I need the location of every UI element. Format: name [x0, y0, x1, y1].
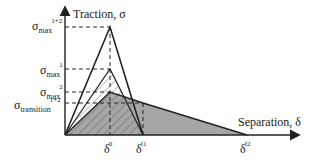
y-axis-label: Traction, σ: [73, 8, 126, 20]
tick-delta-f2: δf2: [240, 141, 251, 155]
tick-sigma-transition: σtransition1+2: [14, 97, 61, 114]
tick-sigma-max-1-2: σmax1+2: [32, 18, 62, 35]
x-axis-label: Separation, δ: [238, 116, 301, 128]
tick-sigma-max-1: σmax1: [40, 62, 63, 79]
tick-delta-f1: δf1: [136, 141, 147, 155]
tick-delta-0: δ0: [104, 141, 112, 155]
